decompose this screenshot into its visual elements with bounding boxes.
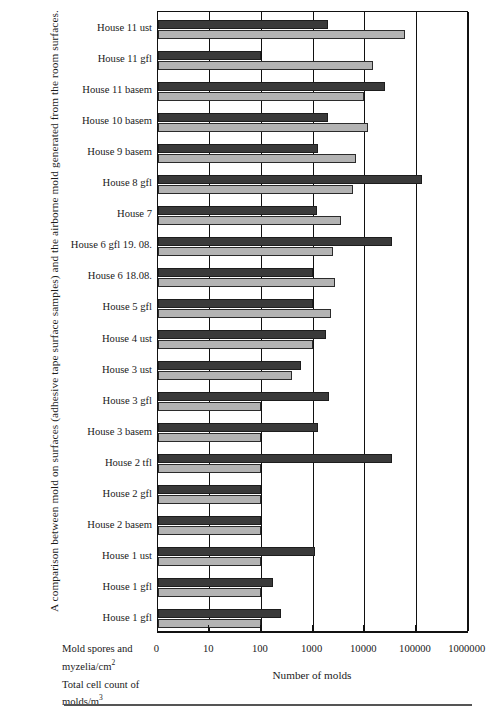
bar-air bbox=[158, 433, 261, 442]
bar-group bbox=[158, 291, 467, 322]
bar-surface bbox=[158, 392, 330, 401]
plot-area bbox=[157, 11, 468, 632]
y-axis-label: House 11 gfl bbox=[56, 53, 152, 65]
bar-surface bbox=[158, 268, 313, 277]
bar-air bbox=[158, 185, 353, 194]
x-tick-label: 100 bbox=[252, 643, 268, 654]
y-axis-label: House 9 basem bbox=[56, 146, 152, 158]
bar-surface bbox=[158, 299, 313, 308]
bar-surface bbox=[158, 454, 393, 463]
bar-surface bbox=[158, 578, 273, 587]
unit-legend: Mold spores and myzelia/cm2 Total cell c… bbox=[62, 642, 158, 713]
bar-surface bbox=[158, 423, 319, 432]
y-axis-label: House 2 basem bbox=[56, 519, 152, 531]
y-axis-label: House 3 ust bbox=[56, 364, 152, 376]
y-axis-label: House 1 gfl bbox=[56, 612, 152, 624]
y-axis-label: House 3 basem bbox=[56, 426, 152, 438]
x-axis bbox=[157, 632, 468, 642]
x-axis-title: Number of molds bbox=[157, 669, 468, 681]
bar-surface bbox=[158, 82, 385, 91]
bar-air bbox=[158, 247, 334, 256]
y-axis-label: House 11 basem bbox=[56, 84, 152, 96]
bar-air bbox=[158, 371, 293, 380]
unit-surface: Mold spores and myzelia/cm2 bbox=[62, 642, 158, 673]
unit-air-line1: Total cell count of bbox=[62, 678, 158, 692]
bar-air bbox=[158, 340, 313, 349]
bar-air bbox=[158, 464, 261, 473]
x-tick-1000000 bbox=[467, 625, 468, 633]
y-axis-label: House 8 gfl bbox=[56, 177, 152, 189]
x-tick-0 bbox=[157, 625, 158, 633]
bar-surface bbox=[158, 206, 317, 215]
x-tick-label: 100000 bbox=[399, 643, 431, 654]
bar-air bbox=[158, 123, 369, 132]
bar-surface bbox=[158, 609, 282, 618]
bar-group bbox=[158, 385, 467, 416]
unit-air-exponent: 3 bbox=[99, 693, 103, 702]
bar-group bbox=[158, 198, 467, 229]
bar-group bbox=[158, 571, 467, 602]
bar-group bbox=[158, 12, 467, 43]
bar-group bbox=[158, 136, 467, 167]
bar-group bbox=[158, 260, 467, 291]
x-tick-label: 10 bbox=[203, 643, 214, 654]
bar-surface bbox=[158, 175, 422, 184]
bar-air bbox=[158, 495, 261, 504]
y-axis-label: House 3 gfl bbox=[56, 395, 152, 407]
bar-group bbox=[158, 229, 467, 260]
bar-group bbox=[158, 447, 467, 478]
x-tick-label: 1000000 bbox=[448, 643, 485, 654]
bar-group bbox=[158, 43, 467, 74]
bar-surface bbox=[158, 485, 261, 494]
bar-surface bbox=[158, 113, 329, 122]
y-axis-label: House 1 gfl bbox=[56, 581, 152, 593]
x-tick-100000 bbox=[415, 625, 416, 633]
y-axis-label: House 2 tfl bbox=[56, 457, 152, 469]
y-axis-label: House 10 basem bbox=[56, 115, 152, 127]
y-axis-label: House 7 bbox=[56, 208, 152, 220]
chart-page: A comparison between mold on surfaces (a… bbox=[0, 0, 490, 718]
bar-surface bbox=[158, 144, 319, 153]
bar-group bbox=[158, 167, 467, 198]
bar-surface bbox=[158, 20, 329, 29]
bar-air bbox=[158, 526, 261, 535]
y-axis-label: House 1 ust bbox=[56, 550, 152, 562]
x-tick-10000 bbox=[363, 625, 364, 633]
bottom-divider bbox=[64, 704, 472, 706]
bar-group bbox=[158, 540, 467, 571]
bar-air bbox=[158, 588, 261, 597]
x-axis-tick-labels: 0101001000100001000001000000 bbox=[120, 643, 490, 659]
bar-air bbox=[158, 309, 332, 318]
bar-air bbox=[158, 402, 261, 411]
unit-surface-line2: myzelia/cm2 bbox=[62, 656, 158, 673]
bar-air bbox=[158, 557, 261, 566]
bar-group bbox=[158, 74, 467, 105]
bar-air bbox=[158, 154, 357, 163]
y-axis-category-labels: House 11 ustHouse 11 gflHouse 11 basemHo… bbox=[58, 11, 156, 632]
unit-surface-exponent: 2 bbox=[111, 658, 115, 667]
bar-group bbox=[158, 354, 467, 385]
bar-air bbox=[158, 278, 335, 287]
bar-group bbox=[158, 478, 467, 509]
bar-air bbox=[158, 216, 341, 225]
y-axis-label: House 6 gfl 19. 08. bbox=[56, 239, 152, 251]
y-axis-label: House 11 ust bbox=[56, 22, 152, 34]
gridline-1000000 bbox=[468, 12, 469, 631]
y-axis-label: House 5 gfl bbox=[56, 301, 152, 313]
unit-surface-line1: Mold spores and bbox=[62, 642, 158, 656]
bar-surface bbox=[158, 237, 393, 246]
y-axis-label: House 2 gfl bbox=[56, 488, 152, 500]
bar-surface bbox=[158, 330, 326, 339]
y-axis-label: House 4 ust bbox=[56, 333, 152, 345]
y-axis-label: House 6 18.08. bbox=[56, 270, 152, 282]
chart-caption-container: A comparison between mold on surfaces (a… bbox=[0, 0, 58, 625]
bar-air bbox=[158, 61, 374, 70]
bar-group bbox=[158, 323, 467, 354]
x-tick-1000 bbox=[312, 625, 313, 633]
bar-air bbox=[158, 30, 405, 39]
bar-surface bbox=[158, 516, 261, 525]
bar-surface bbox=[158, 51, 261, 60]
bar-air bbox=[158, 92, 365, 101]
bar-group bbox=[158, 416, 467, 447]
bar-surface bbox=[158, 361, 302, 370]
